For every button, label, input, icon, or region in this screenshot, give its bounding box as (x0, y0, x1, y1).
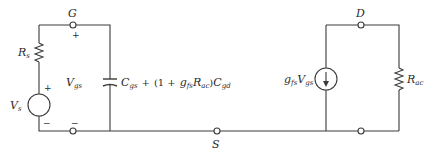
voltage-source-minus: − (43, 118, 51, 128)
gate-terminal (70, 22, 76, 28)
source-resistor-label: Rs (17, 46, 30, 60)
gate-plus: + (72, 30, 80, 40)
current-source-icon (315, 68, 337, 90)
voltage-source-plus: + (44, 83, 52, 93)
source-label: S (212, 138, 220, 151)
circuit-diagram: G D S Rs Vs + − + Vgs − Cgs+(1 +gfsRac)C… (0, 0, 437, 155)
voltage-source-label: Vs (10, 99, 22, 113)
capacitor-icon (103, 79, 117, 86)
drain-label: D (355, 7, 365, 20)
current-source-label: gfsVgs (284, 73, 314, 87)
capacitance-label: Cgs+(1 +gfsRac)Cgd (121, 76, 231, 90)
gate-voltage-label: Vgs (66, 76, 82, 90)
gate-label: G (68, 7, 77, 20)
drain-terminal (358, 22, 364, 28)
source-terminal (214, 128, 220, 134)
voltage-source-icon (28, 94, 50, 116)
load-resistor-label: Rac (406, 73, 423, 87)
gate-bottom-terminal (70, 128, 76, 134)
load-resistor-icon (395, 68, 403, 90)
drain-bottom-terminal (358, 128, 364, 134)
gate-minus: − (71, 118, 79, 128)
source-resistor-icon (35, 43, 43, 62)
